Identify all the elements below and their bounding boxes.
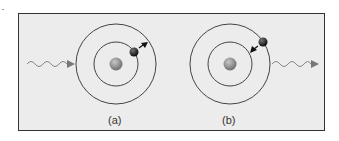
panel-b-label: (b): [222, 114, 235, 126]
panel-b: [190, 24, 319, 104]
electron: [259, 38, 268, 47]
nucleus: [110, 58, 123, 71]
electron: [130, 48, 139, 57]
panel-a: [27, 24, 156, 104]
panel-a-label: (a): [108, 114, 121, 126]
nucleus: [224, 58, 237, 71]
outgoing-photon-icon: [272, 62, 311, 67]
photon-arrowhead-icon: [311, 60, 319, 68]
bohr-atom-diagram: [0, 0, 339, 141]
incoming-photon-icon: [27, 62, 67, 67]
electron-direction-arrow: [139, 45, 143, 48]
photon-arrowhead-icon: [67, 60, 75, 68]
